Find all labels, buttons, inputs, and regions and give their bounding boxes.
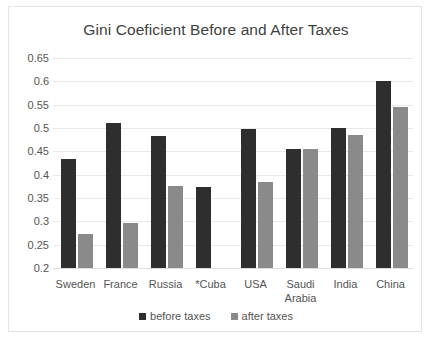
bar-after-taxes[interactable]	[303, 149, 318, 268]
bar-group	[278, 52, 323, 274]
bar-before-taxes[interactable]	[196, 187, 211, 268]
chart-title: Gini Coeficient Before and After Taxes	[9, 21, 423, 39]
legend-label: after taxes	[242, 310, 293, 322]
y-axis-tick-label: 0.55	[9, 99, 49, 111]
chart-legend: before taxesafter taxes	[9, 310, 423, 322]
y-axis-tick-label: 0.6	[9, 75, 49, 87]
bar-group	[368, 52, 413, 274]
y-axis-tick-label: 0.45	[9, 145, 49, 157]
bar-after-taxes[interactable]	[258, 182, 273, 268]
bar-group	[188, 52, 233, 274]
bar-before-taxes[interactable]	[106, 123, 121, 268]
y-axis-tick-label: 0.5	[9, 122, 49, 134]
x-axis-tick-label: India	[323, 278, 368, 292]
bar-before-taxes[interactable]	[286, 149, 301, 268]
bar-group	[143, 52, 188, 274]
y-axis-tick-label: 0.25	[9, 239, 49, 251]
y-axis-labels: 0.650.60.550.50.450.40.350.30.250.2	[9, 52, 49, 274]
legend-item[interactable]: before taxes	[139, 310, 211, 322]
y-axis-tick-label: 0.2	[9, 262, 49, 274]
legend-swatch-icon	[231, 313, 238, 320]
y-axis-tick-label: 0.4	[9, 169, 49, 181]
y-axis-tick-label: 0.3	[9, 215, 49, 227]
y-axis-tick-label: 0.65	[9, 52, 49, 64]
plot-area	[53, 52, 413, 274]
bar-after-taxes[interactable]	[123, 223, 138, 268]
x-axis-tick-label: USA	[233, 278, 278, 292]
x-axis-tick-label: France	[98, 278, 143, 292]
legend-label: before taxes	[150, 310, 211, 322]
x-axis-tick-label: Sweden	[53, 278, 98, 292]
bar-group	[233, 52, 278, 274]
bars-layer	[53, 52, 413, 274]
legend-item[interactable]: after taxes	[231, 310, 293, 322]
legend-swatch-icon	[139, 313, 146, 320]
bar-group	[98, 52, 143, 274]
x-axis-tick-label: Saudi Arabia	[278, 278, 323, 305]
bar-after-taxes[interactable]	[78, 234, 93, 268]
bar-group	[323, 52, 368, 274]
bar-before-taxes[interactable]	[241, 129, 256, 268]
y-axis-tick-label: 0.35	[9, 192, 49, 204]
chart-container: Gini Coeficient Before and After Taxes 0…	[8, 6, 422, 332]
bar-after-taxes[interactable]	[348, 135, 363, 268]
bar-group	[53, 52, 98, 274]
x-axis-tick-label: Russia	[143, 278, 188, 292]
x-axis-tick-label: China	[368, 278, 413, 292]
bar-after-taxes[interactable]	[168, 186, 183, 268]
bar-before-taxes[interactable]	[376, 81, 391, 268]
bar-before-taxes[interactable]	[331, 128, 346, 268]
bar-before-taxes[interactable]	[151, 136, 166, 268]
bar-before-taxes[interactable]	[61, 159, 76, 268]
bar-after-taxes[interactable]	[393, 107, 408, 268]
x-axis-tick-label: *Cuba	[188, 278, 233, 292]
